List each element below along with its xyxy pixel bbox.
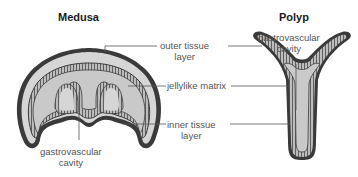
polyp-title: Polyp bbox=[279, 11, 309, 23]
label-medusa-gastrovascular-cavity: gastrovascular cavity bbox=[40, 146, 102, 168]
label-outer-tissue-layer: outer tissue layer bbox=[160, 40, 209, 62]
medusa-title: Medusa bbox=[58, 11, 99, 23]
cnidarian-body-forms-diagram: Medusa Polyp outer tissue layer jellylik… bbox=[0, 0, 358, 177]
leader-outer-tissue-medusa bbox=[105, 46, 157, 52]
medusa-figure bbox=[17, 48, 161, 148]
label-inner-tissue-layer: inner tissue layer bbox=[167, 119, 216, 141]
label-polyp-gastrovascular-cavity: gastrovascular cavity bbox=[258, 32, 320, 54]
label-jellylike-matrix: jellylike matrix bbox=[167, 80, 226, 91]
